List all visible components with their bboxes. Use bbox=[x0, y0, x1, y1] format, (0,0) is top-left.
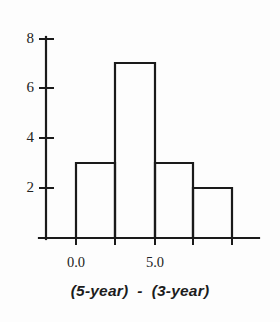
histogram-figure: 8 6 4 2 0.0 5.0 (5-year) - (3-year) bbox=[0, 0, 280, 322]
x-tick-label-0: 0.0 bbox=[67, 254, 85, 270]
bar-bin-2 bbox=[115, 63, 155, 238]
bar-bin-4 bbox=[193, 188, 232, 238]
y-tick-label-6: 6 bbox=[27, 79, 35, 95]
y-tick-label-8: 8 bbox=[27, 30, 35, 46]
y-tick-label-2: 2 bbox=[27, 179, 35, 195]
x-axis-caption: (5-year) - (3-year) bbox=[0, 282, 280, 300]
bar-group bbox=[76, 63, 232, 238]
plot-area: 8 6 4 2 0.0 5.0 bbox=[0, 0, 280, 322]
bar-bin-3 bbox=[155, 163, 193, 238]
bar-bin-1 bbox=[76, 163, 115, 238]
x-tick-label-5: 5.0 bbox=[146, 254, 164, 270]
y-tick-label-4: 4 bbox=[27, 129, 35, 145]
